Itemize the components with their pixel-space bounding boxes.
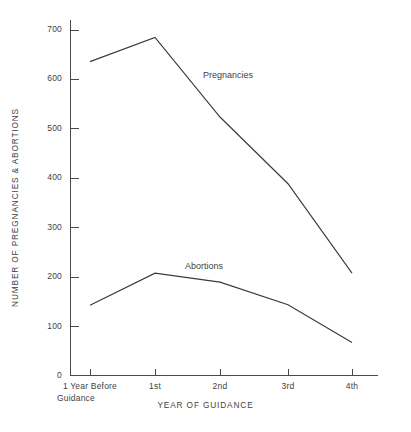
series-label-pregnancies: Pregnancies [203,70,253,80]
x-axis-title: YEAR OF GUIDANCE [0,400,411,410]
y-tick-label: 400 [28,172,62,182]
y-tick-label: 300 [28,222,62,232]
x-tick-label: 4th [307,381,397,391]
y-tick-label: 700 [28,24,62,34]
y-tick-label: 100 [28,321,62,331]
x-tick-label-line1: 4th [346,381,358,391]
series-label-abortions: Abortions [185,261,223,271]
line-chart-plot [0,0,411,432]
x-tick-label-line1: 1 Year Before [63,381,117,391]
x-tick-label-line1: 2nd [213,381,228,391]
y-axis-title: NUMBER OF PREGNANCIES & ABORTIONS [10,108,24,307]
series-line-abortions [90,273,352,342]
x-tick-label-line1: 1st [149,381,161,391]
y-tick-label: 600 [28,73,62,83]
chart-figure: 0100200300400500600700 1 Year BeforeGuid… [0,0,411,432]
y-tick-label: 0 [28,370,62,380]
x-axis-ticks [91,369,353,376]
y-axis-ticks [71,31,79,377]
series-group [90,37,352,342]
y-tick-label: 500 [28,123,62,133]
x-tick-label-line1: 3rd [282,381,295,391]
y-tick-label: 200 [28,271,62,281]
